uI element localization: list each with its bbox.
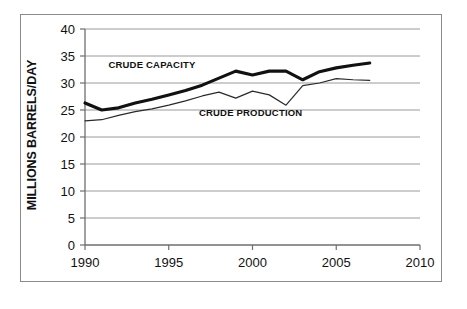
y-axis-tick-labels: 0510152025303540: [61, 22, 75, 253]
y-axis-tick-label: 0: [68, 238, 75, 253]
y-axis-tick-label: 25: [61, 103, 75, 118]
series-annotation-crude-capacity: CRUDE CAPACITY: [108, 59, 196, 70]
series-line-crude-capacity: [85, 63, 370, 110]
y-axis-tick-label: 40: [61, 22, 75, 37]
x-axis-tick-label: 2000: [238, 255, 267, 270]
chart-plot-area: 0510152025303540 19901995200020052010 CR…: [0, 0, 467, 309]
chart-figure: MILLIONS BARRELS/DAY 0510152025303540 19…: [0, 0, 467, 309]
y-axis-tick-label: 20: [61, 130, 75, 145]
x-axis-tick-label: 2005: [322, 255, 351, 270]
y-axis-tick-label: 10: [61, 184, 75, 199]
y-axis-tick-label: 35: [61, 49, 75, 64]
x-axis-tick-labels: 19901995200020052010: [71, 255, 435, 270]
y-axis-tick-label: 5: [68, 211, 75, 226]
gridlines: [85, 29, 420, 218]
y-axis-tick-label: 15: [61, 157, 75, 172]
x-axis-tick-label: 1990: [71, 255, 100, 270]
x-axis-tick-label: 1995: [154, 255, 183, 270]
y-axis-tick-label: 30: [61, 76, 75, 91]
x-axis-tick-label: 2010: [406, 255, 435, 270]
series-annotation-crude-production: CRUDE PRODUCTION: [199, 107, 302, 118]
